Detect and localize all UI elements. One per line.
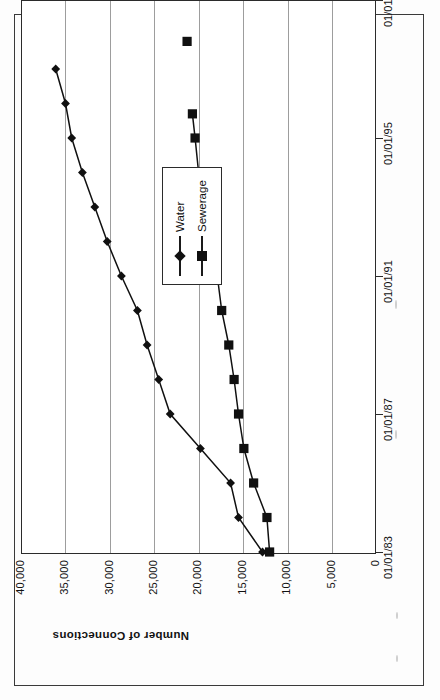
x-axis-tick-label: 01/01/83: [382, 536, 394, 579]
chart-figure: Number of Connections 40,000 35,000 30,0…: [2, 0, 398, 638]
legend-label: Water: [174, 202, 186, 236]
y-axis-tick-label: 20,000: [191, 560, 203, 630]
y-axis-tick-label: 40,000: [14, 560, 26, 630]
legend-item-sewerage: Sewerage: [191, 176, 213, 276]
y-axis-tick-label: 15,000: [236, 560, 248, 630]
x-axis-tick-label: 01/01/91: [382, 260, 394, 303]
y-axis-tick-label: 30,000: [103, 560, 115, 630]
x-axis-tick-label: 01/01/99: [382, 0, 394, 27]
x-axis-tick-label: 01/01/95: [382, 122, 394, 165]
legend-label: Sewerage: [196, 180, 208, 236]
chart-legend: Water Sewerage: [162, 167, 222, 285]
scanned-page: Number of Connections 40,000 35,000 30,0…: [0, 0, 440, 700]
y-axis-tick-label: 0: [369, 560, 381, 630]
y-axis-tick-label: 35,000: [58, 560, 70, 630]
square-marker-icon: [195, 236, 209, 276]
scan-speck: [396, 655, 398, 662]
y-axis-title: Number of Connections: [52, 630, 189, 642]
y-axis-tick-label: 10,000: [280, 560, 292, 630]
y-axis-tick-label: 5,000: [325, 560, 337, 630]
plot-area: Water Sewerage: [21, 0, 376, 554]
diamond-marker-icon: [173, 236, 187, 276]
legend-item-water: Water: [169, 176, 191, 276]
y-axis-tick-label: 25,000: [147, 560, 159, 630]
x-axis-tick-label: 01/01/87: [382, 398, 394, 441]
